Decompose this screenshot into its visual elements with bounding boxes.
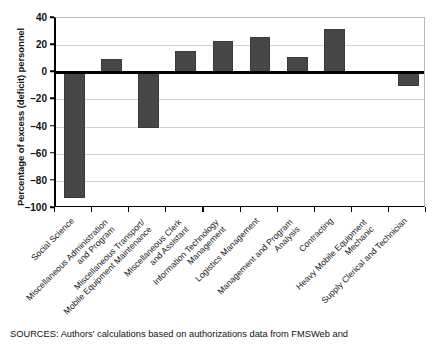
x-tick-mark [388,207,389,212]
x-tick-label: Social Science [0,216,76,336]
y-tick-mark [50,43,54,45]
x-tick-label-line: Miscellaneous Clerk [122,217,183,278]
x-tick-label-line: Miscellaneous Transport/ [72,217,147,292]
y-tick-label: –80 [7,174,47,185]
y-tick-mark [50,152,54,154]
x-tick-label: Information TechnologyManagement [101,218,228,345]
y-tick-label: 20 [7,39,47,50]
x-tick-mark [240,207,241,212]
x-tick-label: Management and ProgramAnalysis [175,218,302,345]
x-tick-label-line: Mobile Equipment Maintenance [34,225,154,345]
y-tick-mark [50,125,54,127]
y-tick-label: 40 [7,12,47,23]
y-tick-label: –20 [7,93,47,104]
y-tick-mark [50,98,54,100]
y-tick-mark [50,179,54,181]
x-tick-label-line: Logistics Management [193,216,261,284]
y-tick-label: –40 [7,120,47,131]
y-tick-label: –100 [7,202,47,213]
x-tick-label-line: Heavy Mobile Equipment [294,217,369,292]
source-note: SOURCES: Authors' calculations based on … [10,329,428,340]
x-tick-label-line: Information Technology [151,217,221,287]
x-tick-mark [277,207,278,212]
x-tick-label: Miscellaneous Administrationand Program [0,218,116,345]
x-tick-label-line: Miscellaneous Administration [24,217,109,302]
x-tick-label-line: Management [108,225,228,345]
figure-bar-chart: Percentage of excess (deficit) personnel… [0,0,434,349]
y-tick-mark [50,16,54,18]
x-tick-label-line: Contracting [297,216,335,254]
x-tick-label-line: and Program [0,225,116,345]
x-tick-mark [202,207,203,212]
x-tick-mark [314,207,315,212]
x-tick-label-line: Supply Clerical and Technician [320,216,410,306]
x-tick-mark [351,207,352,212]
plot-area [54,17,425,207]
x-tick-label: Miscellaneous Clerkand Assistant [64,218,191,345]
x-tick-label-line: and Assistant [71,225,191,345]
zero-line [56,71,424,74]
x-tick-mark [165,207,166,212]
x-tick-mark [91,207,92,212]
x-tick-label-line: Management and Program [215,217,294,296]
x-tick-mark [425,207,426,212]
x-tick-label: Miscellaneous Transport/Mobile Equipment… [27,218,154,345]
x-tick-label-line: Social Science [29,216,76,263]
x-tick-label: Logistics Management [142,216,262,336]
x-tick-label: Heavy Mobile EquipmentMechanic [249,218,376,345]
zero-baseline [56,18,424,206]
x-tick-label-line: Analysis [182,225,302,345]
y-tick-label: –60 [7,147,47,158]
x-tick-label: Contracting [216,216,336,336]
x-tick-mark [128,207,129,212]
x-tick-label: Supply Clerical and Technician [290,216,410,336]
x-tick-mark [54,207,55,212]
y-tick-mark [50,71,54,73]
x-tick-label-line: Mechanic [256,225,376,345]
y-tick-label: 0 [7,66,47,77]
